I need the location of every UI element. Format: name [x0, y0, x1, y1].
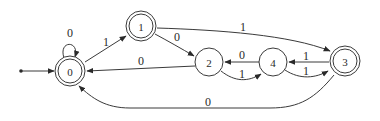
edge-2-4: 1: [221, 67, 261, 81]
state-label: 0: [67, 66, 73, 78]
edge-label: 1: [239, 67, 245, 81]
edge-3-0: 0: [79, 75, 334, 109]
edge-4-3: 1: [285, 64, 328, 78]
edge-label: 1: [303, 49, 309, 63]
state-label: 1: [138, 21, 144, 33]
edge-label: 0: [67, 26, 73, 40]
edge-1-3: 1: [157, 20, 330, 51]
edge-label: 1: [303, 64, 309, 78]
edge-label: 0: [138, 54, 144, 68]
state-label: 2: [206, 57, 212, 69]
state-0: 0: [55, 56, 85, 86]
edge-label: 0: [174, 30, 180, 44]
edge-1-2: 0: [155, 30, 194, 56]
edge-0-0: 0: [63, 26, 76, 58]
edge-label: 1: [103, 35, 109, 49]
state-diagram: 0 1 0 1 0 1 0 1 1 0 0: [0, 0, 380, 121]
state-4: 4: [259, 48, 287, 76]
start-arrow: [19, 69, 54, 73]
state-1: 1: [126, 11, 156, 41]
edge-label: 1: [240, 20, 246, 34]
state-3: 3: [330, 46, 360, 76]
edge-3-4: 1: [289, 49, 329, 63]
state-label: 3: [342, 56, 348, 68]
edge-label: 0: [239, 48, 245, 62]
state-label: 4: [270, 57, 276, 69]
edge-2-0: 0: [87, 54, 195, 71]
state-2: 2: [195, 48, 223, 76]
edge-label: 0: [205, 95, 211, 109]
edge-0-1: 1: [85, 35, 126, 62]
edge-4-2: 0: [225, 48, 259, 62]
